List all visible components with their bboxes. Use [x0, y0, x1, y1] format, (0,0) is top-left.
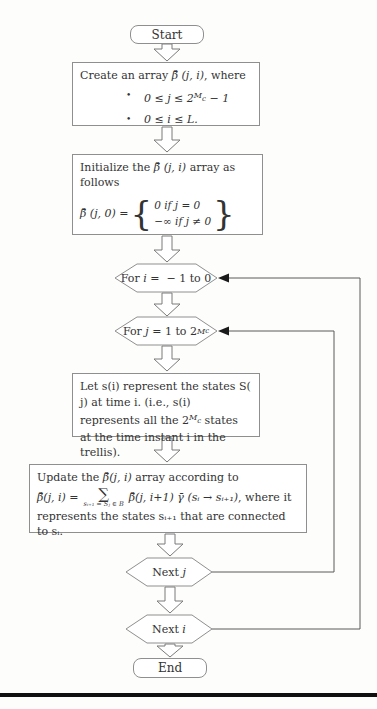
bullet-icon: • — [126, 88, 144, 107]
loop-j-label: For j = 1 to 2Mc — [115, 317, 217, 345]
loop-i-label: For i = − 1 to 0 — [115, 264, 217, 292]
block-arrow-down-icon — [157, 587, 183, 613]
case-j-zero: 0 if j = 0 — [154, 197, 211, 213]
initialize-title: Initialize the β̄ (j, i) array as follow… — [80, 160, 255, 190]
bullet-icon: • — [126, 112, 144, 127]
create-array-title: Create an array β̄ (j, i), where — [80, 68, 252, 83]
block-arrow-down-icon — [154, 127, 180, 152]
block-arrow-down-icon — [154, 44, 180, 61]
next-i-label: Next i — [126, 615, 212, 643]
arrowhead-left-icon — [218, 274, 229, 283]
end-node: End — [133, 658, 207, 678]
block-arrow-down-icon — [154, 293, 180, 316]
block-arrow-down-icon — [154, 346, 180, 371]
range-i-item: • 0 ≤ i ≤ L. — [126, 112, 252, 127]
start-node: Start — [130, 25, 204, 44]
update-title: Update the β̄(j, i) array according to — [37, 470, 299, 485]
case-j-nonzero: −∞ if j ≠ 0 — [154, 213, 211, 229]
summation: ∑ sᵢ₊₁ = Sⱼ ∈ B — [84, 487, 124, 508]
update-box: Update the β̄(j, i) array according to β… — [29, 464, 307, 533]
bottom-rule — [0, 693, 377, 697]
flowchart: Start Create an array β̄ (j, i), where •… — [0, 0, 377, 709]
right-brace: } — [211, 196, 237, 230]
sigma-icon: ∑ — [98, 487, 109, 501]
arrowhead-left-icon — [218, 327, 229, 336]
next-j-label: Next j — [126, 558, 212, 586]
update-equation: β̄(j, i) = ∑ sᵢ₊₁ = Sⱼ ∈ B β̄(j, i+1) γ̄… — [37, 487, 299, 508]
range-j-item: • 0 ≤ j ≤ 2Mc − 1 — [126, 88, 252, 107]
left-brace: { — [129, 196, 155, 230]
create-array-box: Create an array β̄ (j, i), where • 0 ≤ j… — [72, 62, 260, 126]
initialize-box: Initialize the β̄ (j, i) array as follow… — [72, 154, 263, 235]
initialize-equation: β̄ (j, 0) = { 0 if j = 0 −∞ if j ≠ 0 } — [80, 196, 255, 230]
block-arrow-down-icon — [157, 644, 183, 657]
update-tail: represents the states sᵢ₊₁ that are conn… — [37, 509, 299, 539]
block-arrow-down-icon — [154, 236, 180, 262]
end-label: End — [158, 661, 182, 675]
start-label: Start — [152, 28, 183, 42]
states-box: Let s(i) represent the states S( j) at t… — [72, 373, 260, 437]
